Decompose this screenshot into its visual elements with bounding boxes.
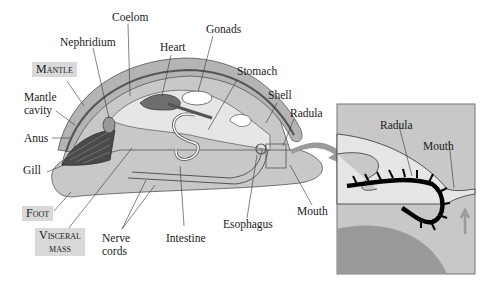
label-mantle-cavity-line2: cavity: [24, 104, 52, 116]
label-gill: Gill: [23, 164, 41, 177]
label-heart: Heart: [160, 41, 186, 54]
label-stomach: Stomach: [237, 65, 277, 78]
label-visceral-mass-line1: Visceral: [39, 228, 81, 242]
inset-label-mouth: Mouth: [423, 140, 454, 153]
label-gonads: Gonads: [206, 23, 241, 36]
gonads-shape: [182, 91, 212, 105]
label-mouth: Mouth: [297, 205, 328, 218]
label-anus: Anus: [24, 132, 48, 145]
label-nerve-cords-line1: Nerve: [102, 232, 130, 244]
label-shell: Shell: [268, 89, 292, 102]
label-radula: Radula: [290, 107, 323, 120]
label-mantle-cavity: Mantle cavity: [24, 91, 57, 117]
label-nerve-cords: Nerve cords: [102, 232, 130, 258]
label-foot: Foot: [22, 206, 53, 221]
label-nephridium: Nephridium: [60, 36, 116, 49]
label-nerve-cords-line2: cords: [102, 245, 127, 257]
label-mantle: Mantle: [32, 62, 77, 77]
label-intestine: Intestine: [166, 232, 206, 245]
label-mantle-cavity-line1: Mantle: [24, 91, 57, 103]
label-visceral-mass: Visceral mass: [35, 228, 85, 256]
nephridium-shape: [103, 117, 115, 133]
label-esophagus: Esophagus: [223, 218, 273, 231]
label-coelom: Coelom: [112, 11, 148, 24]
inset-label-radula: Radula: [380, 119, 413, 132]
label-visceral-mass-line2: mass: [49, 241, 71, 255]
